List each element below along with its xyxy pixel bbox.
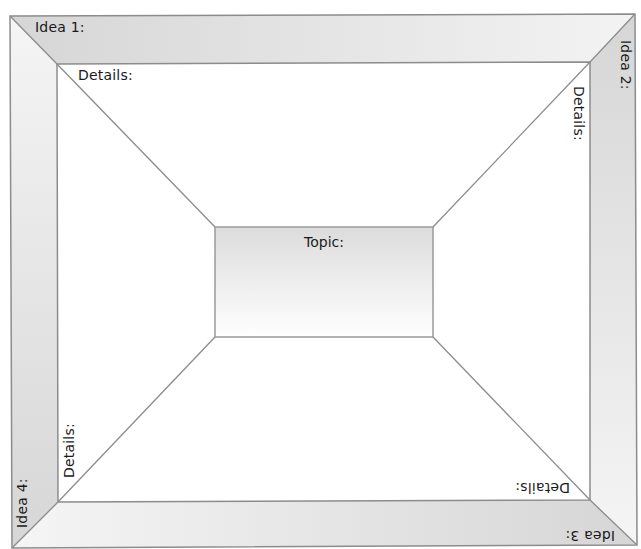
topic-region[interactable]: Topic:: [215, 227, 433, 337]
idea-4-details-label: Details:: [62, 423, 76, 478]
idea-1-details-label: Details:: [78, 68, 133, 82]
topic-label: Topic:: [215, 234, 433, 250]
idea-3-details-label: Details:: [515, 481, 570, 495]
idea-1-label: Idea 1:: [35, 20, 85, 34]
idea-3-band: [12, 500, 637, 548]
idea-2-label: Idea 2:: [619, 40, 633, 90]
idea-1-band: [10, 14, 635, 64]
idea-4-label: Idea 4:: [15, 478, 29, 528]
idea-2-band: [590, 14, 637, 545]
idea-2-details-label: Details:: [572, 86, 586, 141]
idea-3-label: Idea 3:: [565, 529, 615, 543]
